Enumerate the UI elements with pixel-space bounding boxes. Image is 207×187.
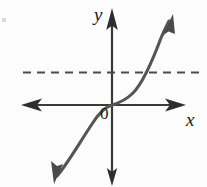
- x-axis-label: x: [186, 110, 194, 129]
- y-axis-label: y: [94, 5, 102, 24]
- coordinate-plane-svg: [0, 0, 207, 187]
- origin-label: 0: [100, 105, 109, 122]
- curve-upper-arrowhead: [162, 14, 175, 36]
- graph-figure: y x 0: [0, 0, 207, 187]
